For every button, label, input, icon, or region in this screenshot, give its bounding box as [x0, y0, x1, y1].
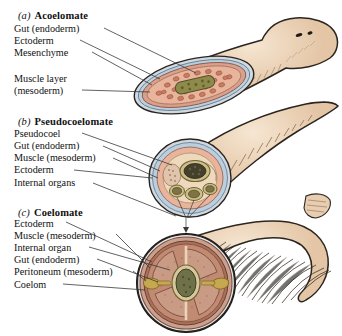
label-a-mesoderm: (mesoderm)	[14, 85, 63, 96]
panel-c-letter: (c)	[18, 207, 30, 218]
label-c-ectoderm: Ectoderm	[14, 218, 54, 229]
label-a-gut-endoderm: Gut (endoderm)	[14, 23, 79, 34]
gut-region-b	[184, 164, 206, 179]
panel-c-heading: Coelomate	[30, 207, 83, 218]
label-b-muscle-mesoderm: Muscle (mesoderm)	[14, 152, 96, 163]
label-c-muscle-mesoderm: Muscle (mesoderm)	[14, 230, 96, 241]
panel-b-heading: Pseudocoelomate	[31, 116, 113, 127]
figure-canvas: (a)Acoelomate Gut (endoderm) Ectoderm Me…	[0, 0, 342, 336]
label-c-coelom: Coelom	[14, 279, 46, 290]
coelomate-cross-section	[136, 233, 236, 333]
label-b-ectoderm: Ectoderm	[14, 164, 54, 175]
label-b-pseudocoel: Pseudocoel	[14, 128, 60, 139]
label-b-gut-endoderm: Gut (endoderm)	[14, 140, 79, 151]
label-c-gut-endoderm: Gut (endoderm)	[14, 254, 79, 265]
panel-b-letter: (b)	[18, 116, 31, 127]
label-b-internal-organs: Internal organs	[14, 177, 75, 188]
label-a-ectoderm: Ectoderm	[14, 35, 54, 46]
label-c-internal-organ: Internal organ	[14, 242, 71, 253]
panel-b-title: (b)Pseudocoelomate	[18, 116, 113, 127]
pseudocoelomate-cross-section	[149, 139, 231, 217]
panel-a-heading: Acoelomate	[31, 10, 88, 21]
panel-a-letter: (a)	[18, 10, 31, 21]
panel-c-title: (c)Coelomate	[18, 207, 83, 218]
panel-a-title: (a)Acoelomate	[18, 10, 88, 21]
label-c-peritoneum-mesoderm: Peritoneum (mesoderm)	[14, 266, 113, 277]
label-a-mesenchyme: Mesenchyme	[14, 47, 68, 58]
label-a-muscle-layer: Muscle layer	[14, 73, 67, 84]
